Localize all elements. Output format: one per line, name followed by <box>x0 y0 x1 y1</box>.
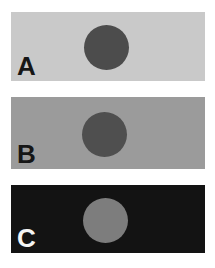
gray-disk-b <box>82 112 127 157</box>
panel-b-label: B <box>17 141 36 167</box>
simultaneous-contrast-figure: A B C <box>0 0 215 268</box>
panel-a-label: A <box>17 53 36 79</box>
panel-c-label: C <box>17 225 36 251</box>
panel-c: C <box>11 185 205 253</box>
gray-disk-c <box>83 198 128 243</box>
gray-disk-a <box>84 25 129 70</box>
panel-a: A <box>11 12 205 81</box>
panel-b: B <box>11 97 205 169</box>
